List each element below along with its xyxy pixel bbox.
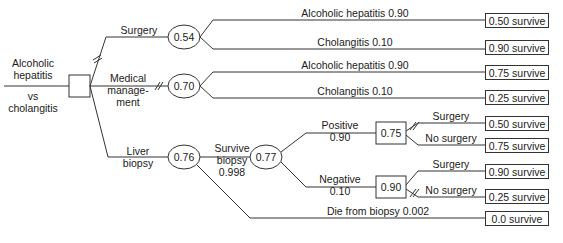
outcome-box: 0.50 survive: [485, 116, 549, 131]
outcome-box: 0.75 survive: [485, 138, 549, 153]
root-label: Alcoholic hepatitis: [2, 57, 64, 81]
chance-value-medical: 0.70: [168, 80, 200, 92]
label-line: Liver: [118, 145, 158, 157]
option-label: Surgery: [426, 158, 476, 170]
label-line: manage-: [104, 84, 152, 96]
label-line: biopsy: [118, 157, 158, 169]
root-label-lower: vs cholangitis: [2, 90, 64, 114]
outcome-label: Alcoholic hepatitis 0.90: [280, 59, 430, 71]
negative-label: Negative 0.10: [318, 173, 362, 197]
label-line: Negative: [318, 173, 362, 185]
cropped-caption: [0, 236, 563, 243]
root-label-line: Alcoholic: [2, 57, 64, 69]
option-label: No surgery: [422, 132, 480, 144]
outcome-label: Cholangitis 0.10: [280, 85, 430, 97]
survive-biopsy-label: Survive biopsy 0.998: [214, 142, 250, 178]
chance-value-surgery: 0.54: [168, 31, 200, 43]
root-label-line: vs: [2, 90, 64, 102]
positive-label: Positive 0.90: [318, 119, 362, 143]
medical-branch-label: Medical manage- ment: [104, 72, 152, 108]
option-label: Surgery: [426, 110, 476, 122]
die-biopsy-label: Die from biopsy 0.002: [316, 205, 440, 217]
outcome-label: Alcoholic hepatitis 0.90: [280, 7, 430, 19]
root-decision-node: [69, 75, 90, 97]
label-line: biopsy: [214, 154, 250, 166]
label-line: 0.10: [318, 185, 362, 197]
outcome-box: 0.25 survive: [485, 189, 549, 204]
outcome-line: [200, 72, 485, 86]
option-label: No surgery: [422, 184, 480, 196]
label-line: 0.90: [318, 131, 362, 143]
outcome-box: 0.50 survive: [485, 13, 549, 28]
biopsy-branch-label: Liver biopsy: [118, 145, 158, 169]
chance-value-biopsy: 0.76: [168, 151, 200, 163]
prune-mark: [410, 122, 416, 130]
outcome-box: 0.90 survive: [485, 164, 549, 179]
outcome-label: Cholangitis 0.10: [280, 36, 430, 48]
label-line: Positive: [318, 119, 362, 131]
label-line: Medical: [104, 72, 152, 84]
label-line: 0.998: [214, 166, 250, 178]
outcome-box: 0.0 survive: [485, 211, 549, 226]
decision-value-negative: 0.90: [376, 181, 406, 193]
surgery-branch-label: Surgery: [116, 24, 162, 36]
outcome-box: 0.25 survive: [485, 90, 549, 105]
outcome-box: 0.90 survive: [485, 40, 549, 55]
option-line: [406, 171, 485, 185]
decision-value-positive: 0.75: [376, 127, 406, 139]
outcome-box: 0.75 survive: [485, 65, 549, 80]
label-line: Survive: [214, 142, 250, 154]
root-label-line: hepatitis: [2, 69, 64, 81]
root-label-line: cholangitis: [2, 102, 64, 114]
chance-value-survive: 0.77: [250, 151, 282, 163]
label-line: ment: [104, 96, 152, 108]
outcome-line: [200, 20, 485, 37]
prune-mark: [410, 189, 416, 197]
